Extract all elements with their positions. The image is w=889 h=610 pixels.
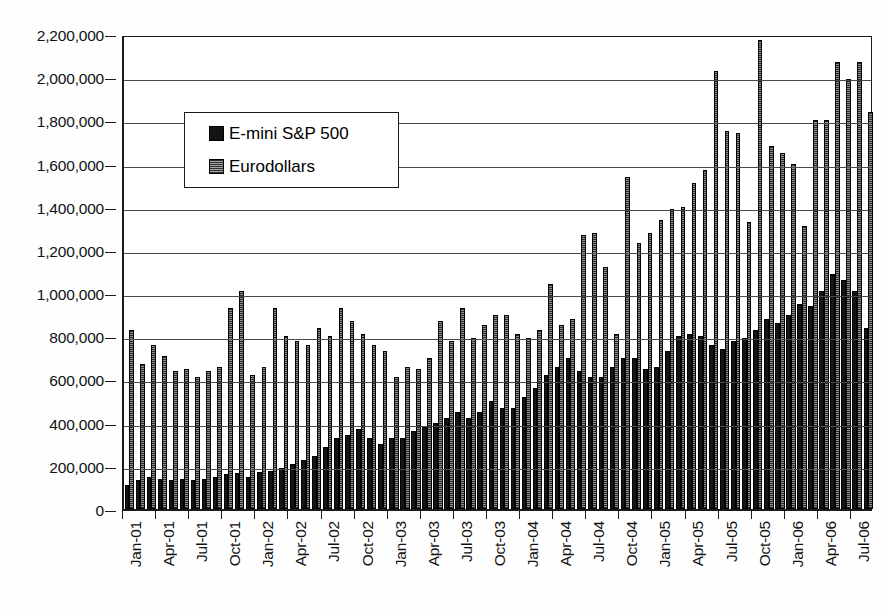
bar-eurodollars	[306, 345, 311, 509]
bar-group	[223, 37, 234, 509]
gridline	[124, 426, 871, 427]
bar-group	[720, 37, 731, 509]
bar-group	[499, 37, 510, 509]
y-axis-tick-mark	[105, 79, 116, 80]
bar-group	[852, 37, 863, 509]
bar-group	[466, 37, 477, 509]
bar-group	[830, 37, 841, 509]
bar-group	[587, 37, 598, 509]
y-axis-tick-label: 0	[96, 502, 104, 520]
y-axis: 0200,000400,000600,000800,0001,000,0001,…	[0, 0, 122, 511]
bar-group	[278, 37, 289, 509]
bar-group	[620, 37, 631, 509]
x-axis-tick-label: Apr-02	[292, 521, 310, 566]
y-axis-tick-label: 200,000	[49, 459, 104, 477]
bar-eurodollars	[372, 345, 377, 509]
x-axis-tick-label: Apr-01	[160, 521, 178, 566]
bar-group	[422, 37, 433, 509]
bar-group	[565, 37, 576, 509]
legend-item-eurodollars: Eurodollars	[209, 157, 398, 177]
x-axis-tick-label: Jan-03	[392, 521, 410, 567]
x-axis-tick-mark	[651, 511, 652, 519]
bar-eurodollars	[692, 183, 697, 509]
bar-group	[797, 37, 808, 509]
bar-group	[819, 37, 830, 509]
bar-eurodollars	[471, 338, 476, 509]
y-axis-tick-mark	[105, 295, 116, 296]
x-axis-tick-label: Oct-04	[623, 521, 641, 566]
y-axis-tick-label: 2,000,000	[37, 70, 104, 88]
gridline	[124, 382, 871, 383]
bar-eurodollars	[846, 79, 851, 509]
bar-eurodollars	[625, 177, 630, 510]
bar-eurodollars	[868, 112, 873, 509]
bar-eurodollars	[438, 321, 443, 509]
bar-eurodollars	[250, 375, 255, 509]
x-axis-tick-label: Apr-03	[425, 521, 443, 566]
bar-group	[631, 37, 642, 509]
x-axis-tick-label: Jul-06	[855, 521, 873, 562]
gridline	[124, 469, 871, 470]
y-axis-tick-mark	[105, 511, 116, 512]
bar-eurodollars	[206, 371, 211, 509]
bar-group	[488, 37, 499, 509]
bar-eurodollars	[780, 153, 785, 509]
bar-eurodollars	[670, 209, 675, 509]
bar-group	[135, 37, 146, 509]
bar-eurodollars	[758, 40, 763, 509]
x-axis-tick-label: Oct-01	[226, 521, 244, 566]
bar-group	[598, 37, 609, 509]
x-axis-tick-label: Oct-05	[756, 521, 774, 566]
bar-eurodollars	[857, 62, 862, 509]
bar-group	[289, 37, 300, 509]
bar-eurodollars	[383, 351, 388, 509]
bar-group	[477, 37, 488, 509]
bar-group	[687, 37, 698, 509]
bar-group	[168, 37, 179, 509]
x-axis-tick-mark	[188, 511, 189, 519]
y-axis-tick-label: 1,400,000	[37, 200, 104, 218]
bar-eurodollars	[350, 321, 355, 509]
x-axis-tick-label: Apr-06	[822, 521, 840, 566]
bar-eurodollars	[361, 334, 366, 509]
bar-group	[323, 37, 334, 509]
x-axis-tick-label: Jul-02	[325, 521, 343, 562]
chart-legend: E-mini S&P 500 Eurodollars	[184, 112, 399, 188]
bar-series-container	[124, 37, 871, 509]
x-axis-tick-mark	[751, 511, 752, 519]
x-axis-labels: Jan-01Apr-01Jul-01Oct-01Jan-02Apr-02Jul-…	[122, 521, 872, 606]
bar-group	[609, 37, 620, 509]
bar-group	[808, 37, 819, 509]
x-axis-tick-mark	[552, 511, 553, 519]
bar-eurodollars	[140, 364, 145, 509]
bar-group	[157, 37, 168, 509]
y-axis-tick-mark	[105, 252, 116, 253]
x-axis-tick-mark	[387, 511, 388, 519]
bar-eurodollars	[504, 315, 509, 509]
bar-eurodollars	[416, 369, 421, 509]
bar-eurodollars	[614, 334, 619, 509]
x-axis-tick-mark	[718, 511, 719, 519]
bar-group	[521, 37, 532, 509]
y-axis-tick-label: 1,000,000	[37, 286, 104, 304]
x-axis-tick-mark	[486, 511, 487, 519]
x-axis-tick-mark	[784, 511, 785, 519]
gridline	[124, 80, 871, 81]
bar-group	[245, 37, 256, 509]
bar-eurodollars	[184, 369, 189, 509]
bar-eurodollars	[769, 146, 774, 509]
bar-group	[753, 37, 764, 509]
x-axis-tick-label: Oct-03	[491, 521, 509, 566]
x-axis-tick-mark	[122, 511, 123, 519]
bar-eurodollars	[394, 377, 399, 509]
x-axis-tick-mark	[685, 511, 686, 519]
bar-group	[234, 37, 245, 509]
bar-group	[709, 37, 720, 509]
x-axis-tick-mark	[354, 511, 355, 519]
bar-group	[256, 37, 267, 509]
bar-group	[334, 37, 345, 509]
bar-group	[786, 37, 797, 509]
bar-eurodollars	[714, 71, 719, 509]
x-axis-tick-mark	[618, 511, 619, 519]
bar-eurodollars	[659, 220, 664, 509]
